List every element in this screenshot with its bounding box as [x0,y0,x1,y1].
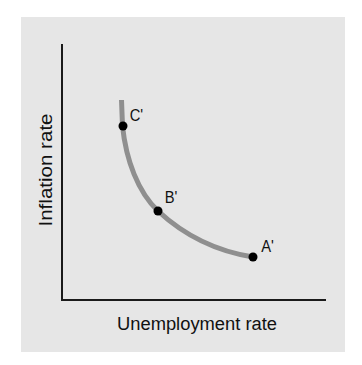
x-axis-label: Unemployment rate [117,314,277,334]
point-a-label: A' [261,237,274,255]
chart-panel [21,17,345,352]
phillips-curve-chart: C' B' A' Unemployment rate Inflation rat… [0,0,362,365]
point-c-marker [119,122,128,131]
point-c-label: C' [130,106,143,124]
y-axis-label: Inflation rate [36,114,56,227]
point-a-marker [249,253,258,262]
point-b-label: B' [165,188,178,206]
point-b-marker [154,207,163,216]
